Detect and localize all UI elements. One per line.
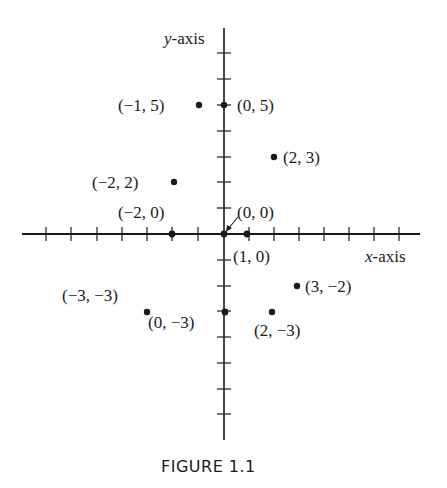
data-points	[144, 102, 300, 316]
label-m1-5: (−1, 5)	[118, 96, 164, 115]
point-2-3	[271, 154, 277, 160]
point-m2-0	[169, 231, 176, 238]
label-0-5: (0, 5)	[237, 96, 274, 115]
label-1-0: (1, 0)	[233, 247, 270, 266]
x-axis-label: x-axis	[364, 247, 406, 266]
point-2-m3	[269, 309, 275, 315]
figure-caption: FIGURE 1.1	[161, 457, 256, 476]
point-0-m3	[222, 309, 229, 316]
label-0-0: (0, 0)	[237, 203, 274, 222]
y-axis-label: y-axis	[162, 29, 205, 48]
label-m2-2: (−2, 2)	[92, 173, 138, 192]
point-0-5	[221, 102, 227, 108]
point-m2-2	[171, 179, 177, 185]
point-1-0	[244, 231, 251, 238]
label-0-m3: (0, −3)	[148, 313, 194, 332]
label-m2-0: (−2, 0)	[118, 203, 164, 222]
point-3-m2	[294, 283, 300, 289]
label-2-m3: (2, −3)	[254, 321, 300, 340]
coordinate-plane: y-axis x-axis (−1, 5) (0, 5) (2, 3) (−2,…	[0, 0, 447, 488]
point-m1-5	[196, 102, 202, 108]
label-m3-m3: (−3, −3)	[62, 286, 118, 305]
label-3-m2: (3, −2)	[305, 277, 351, 296]
label-2-3: (2, 3)	[283, 148, 320, 167]
